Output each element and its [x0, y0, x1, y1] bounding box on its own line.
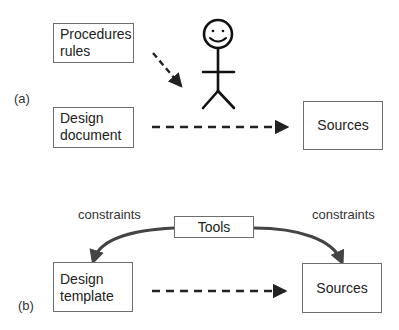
design-document-line2: document [60, 127, 133, 144]
procedures-to-actor-arrow [153, 53, 181, 86]
panel-a-label: (a) [14, 91, 30, 106]
design-template-box: Design template [53, 262, 133, 312]
design-document-box: Design document [53, 107, 134, 148]
sources-b-text: Sources [316, 280, 367, 297]
figure-leg-left [203, 91, 218, 108]
sources-box-a: Sources [303, 101, 383, 150]
panel-b-label: (b) [18, 298, 34, 313]
figure-head [204, 20, 232, 48]
tools-to-sources-curve [254, 228, 341, 260]
constraints-left-label: constraints [78, 207, 141, 222]
figure-smile [210, 38, 226, 42]
sources-a-text: Sources [317, 117, 368, 134]
tools-text: Tools [198, 219, 231, 236]
design-template-line2: template [60, 288, 132, 305]
procedures-line2: rules [60, 43, 133, 60]
design-document-line1: Design [60, 110, 133, 127]
figure-eye-left [212, 30, 215, 33]
procedures-rules-box: Procedures rules [53, 23, 134, 63]
stick-figure-icon [203, 20, 234, 108]
procedures-line1: Procedures [60, 26, 133, 43]
design-template-line1: Design [60, 271, 132, 288]
figure-leg-right [218, 91, 234, 108]
constraints-right-label: constraints [312, 207, 375, 222]
figure-eye-right [222, 30, 225, 33]
sources-box-b: Sources [302, 263, 382, 313]
tools-to-template-curve [94, 228, 174, 259]
tools-box: Tools [174, 216, 254, 238]
